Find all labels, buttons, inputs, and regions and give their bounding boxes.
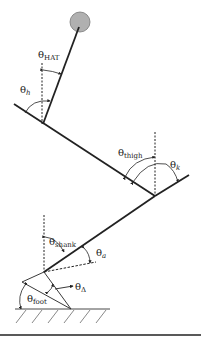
delta-angle-arc [48, 284, 53, 292]
label-theta-delta: θΔ [75, 281, 86, 294]
label-theta-shank: θshank [49, 236, 77, 249]
ankle-angle-arc [84, 248, 90, 263]
ground-hatching [16, 310, 106, 323]
label-theta-k: θk [170, 159, 180, 172]
label-theta-thigh: θthigh [118, 147, 143, 160]
label-theta-a: θa [96, 247, 106, 260]
head-circle [70, 12, 90, 32]
hip-angle-arc [25, 101, 50, 113]
label-theta-hat: θHAT [38, 49, 60, 62]
thigh-angle-arc [125, 157, 155, 177]
knee-extension-segment [155, 175, 189, 196]
shank-segment [44, 196, 155, 272]
hat-angle-arc [43, 70, 61, 74]
foot-angle-arc [20, 285, 25, 309]
delta-pointer-arrow [55, 286, 73, 289]
label-theta-foot: θfoot [27, 293, 47, 306]
segment-angle-diagram: θHAT θh θthigh θk θshank θa θΔ θfoot [0, 0, 201, 348]
thigh-segment [14, 104, 155, 196]
hat-segment [43, 27, 79, 124]
label-theta-h: θh [20, 84, 31, 97]
